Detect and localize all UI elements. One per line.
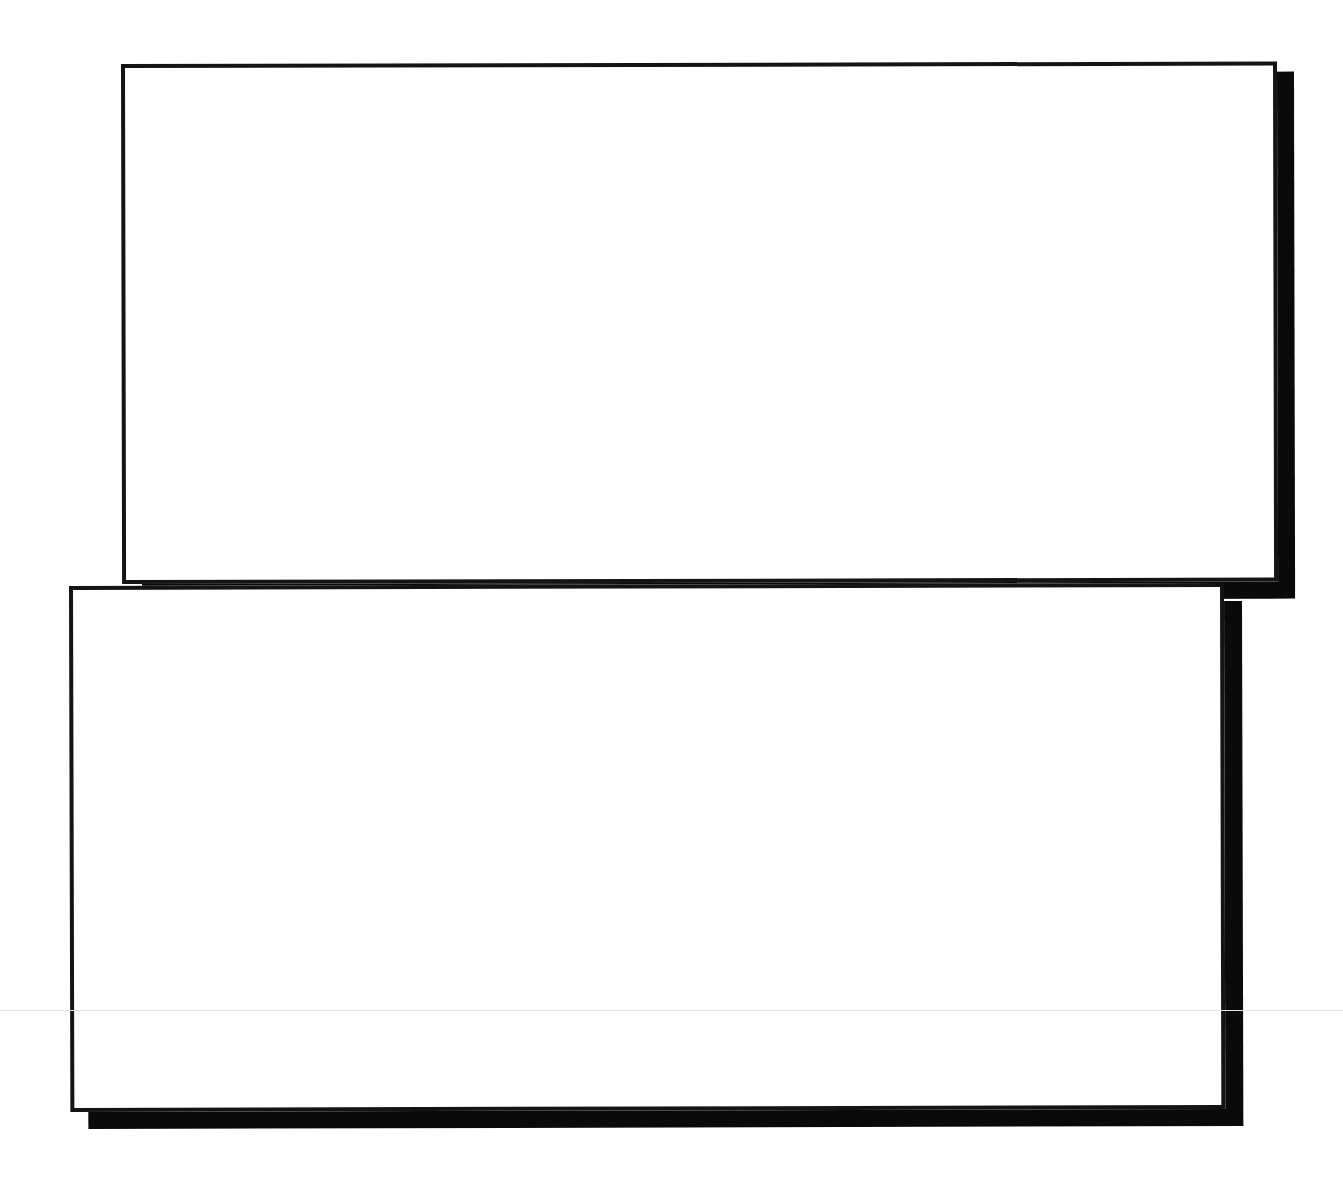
bottom-box	[69, 583, 1225, 1112]
faint-horizontal-guide-line	[0, 1010, 1343, 1011]
top-box	[121, 62, 1278, 584]
